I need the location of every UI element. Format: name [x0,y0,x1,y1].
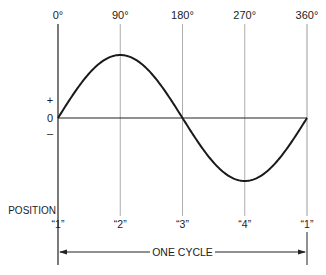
position-label-4: “4” [238,218,251,230]
position-title: POSITION [8,205,56,216]
one-cycle-label: ONE CYCLE [152,246,213,258]
position-label-3: “3” [176,218,189,230]
cycle-arrow-right-head [298,250,306,255]
zero-label: 0 [47,112,53,124]
position-label-5: “1” [301,218,314,230]
position-label-2: “2” [114,218,127,230]
plus-label: + [47,94,53,106]
degree-label-270: 270° [233,9,256,21]
sine-wave-diagram: 0°90°180°270°360° + 0 – POSITION “1”“2”“… [0,0,326,275]
degree-label-90: 90° [112,9,129,21]
position-label-1: “1” [52,218,65,230]
cycle-arrow-left-head [59,250,67,255]
minus-label: – [47,127,54,139]
degree-label-360: 360° [296,9,319,21]
degree-label-0: 0° [53,9,64,21]
degree-label-180: 180° [171,9,194,21]
